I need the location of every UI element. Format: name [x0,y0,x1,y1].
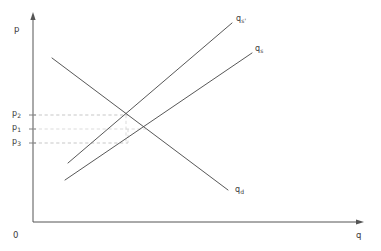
x-axis-arrowhead [356,219,364,224]
price-label-p3: p3 [12,138,21,146]
y-axis-label: p [14,25,20,34]
price-label-p2: p2 [12,110,21,118]
supply-shifted-curve-label: qs' [236,15,246,23]
price-label-p2-sub: 2 [17,112,21,119]
plot-canvas [0,0,381,251]
supply-demand-diagram: p q 0 p2 p1 p3 qs' qs qd [0,0,381,251]
demand-label-sub: d [240,188,244,195]
supply-shifted-label-sub: s' [241,17,246,24]
supply-label-sub: s [260,47,263,54]
supply-curve-shifted [68,23,232,163]
supply-curve-label: qs [255,45,263,53]
origin-label: 0 [13,231,19,240]
x-axis-label: q [356,231,362,240]
demand-curve [52,58,228,190]
y-axis-arrowhead [30,12,35,20]
price-label-p1-sub: 1 [17,126,21,133]
price-label-p1: p1 [12,124,21,132]
price-label-p3-sub: 3 [17,140,21,147]
supply-curve [65,53,252,180]
demand-curve-label: qd [235,186,244,194]
